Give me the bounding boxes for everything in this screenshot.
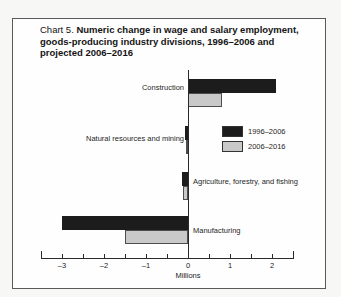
axis-tick [62, 254, 63, 258]
chart-title: Chart 5. Numeric change in wage and sala… [40, 24, 304, 59]
x-axis-title: Millions [158, 271, 218, 280]
figure: Chart 5. Numeric change in wage and sala… [0, 0, 341, 297]
x-axis-line [41, 258, 294, 259]
x-tick-label: –1 [136, 261, 156, 270]
legend-label-2006-2016: 2006–2016 [248, 142, 286, 152]
category-label-agriculture-forestry-and-fishing: Agriculture, forestry, and fishing [193, 177, 298, 187]
axis-end-tick [41, 251, 42, 258]
category-label-natural-resources-and-mining: Natural resources and mining [86, 134, 184, 144]
chart-title-main-text: Numeric change in wage and salary employ… [40, 24, 299, 58]
category-label-construction: Construction [142, 83, 184, 93]
chart-title-prefix: Chart 5. [40, 24, 74, 35]
x-tick-label: –2 [94, 261, 114, 270]
bar-construction-2006-2016 [188, 93, 222, 107]
axis-tick [104, 254, 105, 258]
axis-tick [83, 254, 84, 258]
legend-swatch-1996-2006 [222, 126, 243, 137]
legend-swatch-2006-2016 [222, 141, 243, 152]
axis-tick [188, 254, 189, 258]
axis-tick [146, 254, 147, 258]
legend-label-1996-2006: 1996–2006 [248, 127, 286, 137]
axis-tick [167, 254, 168, 258]
bar-manufacturing-1996-2006 [62, 216, 188, 230]
x-tick-label: –3 [52, 261, 72, 270]
axis-tick [125, 254, 126, 258]
axis-tick [251, 254, 252, 258]
axis-end-tick [293, 251, 294, 258]
axis-tick [230, 254, 231, 258]
bar-manufacturing-2006-2016 [125, 230, 188, 244]
x-tick-label: 1 [220, 261, 240, 270]
zero-axis-line [188, 70, 189, 258]
axis-tick [209, 254, 210, 258]
figure-border-frame [12, 18, 326, 289]
bar-construction-1996-2006 [188, 79, 276, 93]
axis-tick [272, 254, 273, 258]
x-tick-label: 0 [178, 261, 198, 270]
x-tick-label: 2 [262, 261, 282, 270]
category-label-manufacturing: Manufacturing [193, 226, 241, 236]
